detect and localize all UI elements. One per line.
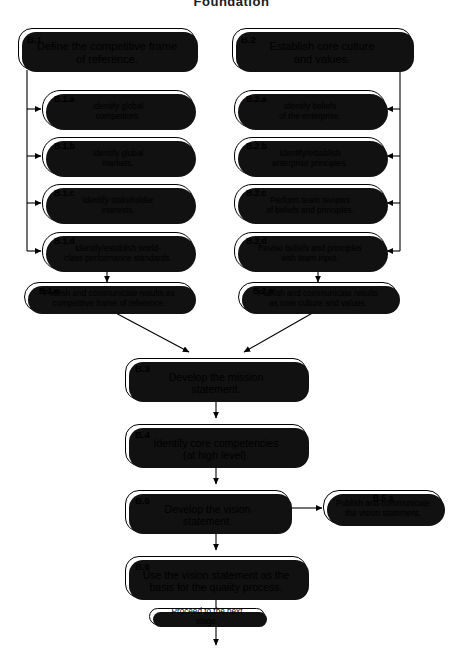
node-b6-text: Use the vision statement as the basis fo… [129, 561, 304, 594]
node-b1b[interactable]: B.1.b Identify global markets. [42, 137, 194, 175]
node-b1c-tag: B.1.c [54, 189, 74, 198]
node-b1a-text: Identify global competitors. [77, 97, 160, 121]
node-b4-tag: B.4 [135, 430, 150, 440]
node-b1c-text: Identify stakeholder interests. [66, 191, 169, 215]
node-b2a-tag: B.2.a [246, 95, 266, 104]
node-b2b-tag: B.2.b [246, 142, 267, 151]
node-b5-text: Develop the vision statement. [151, 495, 265, 528]
node-b1c[interactable]: B.1.c Identify stakeholder interests. [42, 184, 194, 222]
node-b1e-tag: B.1.e [39, 287, 59, 296]
node-b1e[interactable]: B.1.e Publish and communicate results as… [24, 282, 194, 312]
node-b3[interactable]: B.3 Develop the mission statement. [125, 358, 307, 400]
node-b2d-tag: B.2.d [246, 237, 267, 246]
node-b2-tag: B.2 [241, 35, 256, 45]
node-b6-tag: B.6 [135, 562, 150, 572]
node-b2a[interactable]: B.2.a Identify beliefs of the enterprise… [234, 90, 386, 128]
node-b2[interactable]: B.2 Establish core culture and values. [232, 28, 412, 70]
node-b1-tag: B.1 [27, 35, 42, 45]
node-proceed-text: Proceed to the next stage. [150, 607, 264, 626]
node-b2b[interactable]: B.2.b Identify/establish enterprise prin… [234, 137, 386, 175]
node-b5[interactable]: B.5 Develop the vision statement. [125, 490, 290, 532]
node-b1b-text: Identify global markets. [77, 144, 160, 168]
node-b2c-text: Perform team reviews of beliefs and prin… [250, 191, 370, 215]
node-b1-text: Define the competitive frame of referenc… [23, 32, 191, 66]
node-b2c-tag: B.2.c [246, 189, 266, 198]
node-b5a-tag: B.5.a [373, 494, 393, 503]
node-b1b-tag: B.1.b [54, 142, 75, 151]
node-b4[interactable]: B.4 Identify core competencies (at high … [125, 424, 307, 466]
node-b2e-tag: B.2.e [253, 287, 273, 296]
node-b1[interactable]: B.1 Define the competitive frame of refe… [18, 28, 196, 70]
node-b5-tag: B.5 [135, 496, 150, 506]
node-b1a[interactable]: B.1.a Identify global competitors. [42, 90, 194, 128]
node-b1a-tag: B.1.a [54, 95, 74, 104]
node-proceed-to-next-stage[interactable]: Proceed to the next stage. [149, 608, 265, 625]
node-b1d-tag: B.1.d [54, 237, 75, 246]
node-b3-tag: B.3 [135, 364, 150, 374]
arrow-b1e-to-b3 [112, 311, 189, 352]
node-b2e[interactable]: B.2.e Publish and communicate results as… [238, 282, 398, 312]
node-b1d[interactable]: B.1.d Identify/establish world- class pe… [42, 232, 194, 270]
node-b4-text: Identify core competencies (at high leve… [140, 429, 293, 462]
node-b2a-text: Identify beliefs of the enterprise. [263, 97, 356, 121]
flowchart-canvas: Foundation [0, 0, 463, 663]
node-b6[interactable]: B.6 Use the vision statement as the basi… [125, 556, 307, 598]
arrow-b2e-to-b3 [244, 311, 316, 352]
node-b2c[interactable]: B.2.c Perform team reviews of beliefs an… [234, 184, 386, 222]
page-title: Foundation [0, 0, 463, 9]
node-b2b-text: Identify/establish enterprise principles… [256, 144, 364, 168]
node-b2-text: Establish core culture and values. [255, 32, 388, 66]
node-b5a[interactable]: B.5.a Publish and communicate the vision… [323, 490, 443, 524]
node-b3-text: Develop the mission statement. [155, 363, 278, 396]
node-b2d[interactable]: B.2.d Revise beliefs and principles with… [234, 232, 386, 270]
